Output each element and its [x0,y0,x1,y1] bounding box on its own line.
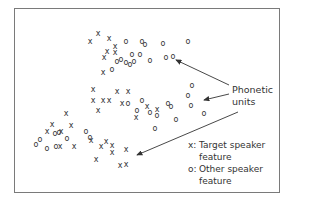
target-speaker-point: x [124,160,129,169]
legend-item-other: o: Other speaker feature [188,163,265,187]
other-speaker-point: o [202,109,207,118]
other-speaker-point: o [190,81,195,90]
target-speaker-point: x [96,106,101,115]
other-speaker-point: o [169,102,174,111]
target-speaker-point: x [126,87,131,96]
target-speaker-point: x [69,121,74,130]
target-speaker-point: x [120,99,125,108]
target-speaker-point: x [94,155,99,164]
target-speaker-point: x [64,109,69,118]
other-speaker-point: o [186,91,191,100]
other-speaker-point: o [45,144,50,153]
arrow-to-top-cluster [176,60,229,85]
other-speaker-point: o [88,133,93,142]
target-speaker-point: x [101,68,106,77]
other-speaker-point: o [54,142,59,151]
target-speaker-point: x [102,53,107,62]
legend-symbol-x: x: [188,139,199,163]
target-speaker-point: x [118,161,123,170]
legend-text-target: Target speaker feature [199,139,265,163]
target-speaker-point: x [124,145,129,154]
phonetic-units-label: Phonetic units [232,84,273,108]
scatter-points: xxxxxxxxxxxxxxxxxxxxxxxxxxxxxxxxxxxooooo… [34,29,207,170]
other-speaker-point: o [164,53,169,62]
target-speaker-point: x [96,29,101,38]
other-speaker-point: o [143,40,148,49]
other-speaker-point: o [148,56,153,65]
target-speaker-point: x [107,34,112,43]
other-speaker-point: o [153,124,158,133]
other-speaker-point: o [140,96,145,105]
other-speaker-point: o [189,101,194,110]
legend-text-other: Other speaker feature [199,163,263,187]
other-speaker-point: o [171,52,176,61]
target-speaker-point: x [101,96,106,105]
target-speaker-point: x [50,120,55,129]
target-speaker-point: x [88,37,93,46]
target-speaker-point: x [104,137,109,146]
legend-symbol-o: o: [188,163,199,187]
target-speaker-point: x [91,85,96,94]
other-speaker-point: o [65,134,70,143]
target-speaker-point: x [115,87,120,96]
other-speaker-point: o [126,99,131,108]
other-speaker-point: o [124,37,129,46]
target-speaker-point: x [72,142,77,151]
target-speaker-point: x [91,96,96,105]
arrow-to-middle-cluster [204,94,229,100]
legend-item-target: x: Target speaker feature [188,139,265,163]
other-speaker-point: o [148,108,153,117]
other-speaker-point: o [57,128,62,137]
other-speaker-point: o [161,39,166,48]
label-line-1: Phonetic [232,84,273,96]
other-speaker-point: o [174,115,179,124]
target-speaker-point: x [45,127,50,136]
other-speaker-point: o [155,111,160,120]
other-speaker-point: o [138,50,143,59]
other-speaker-point: o [135,106,140,115]
other-speaker-point: o [34,140,39,149]
label-line-2: units [232,96,273,108]
target-speaker-point: x [110,148,115,157]
target-speaker-point: x [107,96,112,105]
legend: x: Target speaker feature o: Other speak… [188,139,265,187]
other-speaker-point: o [132,57,137,66]
target-speaker-point: x [113,48,118,57]
other-speaker-point: o [110,65,115,74]
other-speaker-point: o [186,37,191,46]
